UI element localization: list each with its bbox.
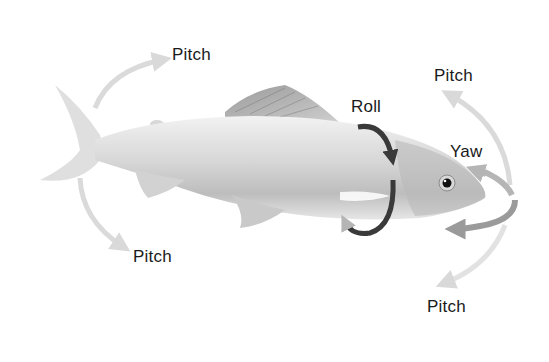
fish-tail [40,85,103,181]
pitch-label-top-right: Pitch [434,66,473,86]
fish-body [95,116,485,219]
roll-label: Roll [351,97,381,117]
pitch-arrow-head-down [445,225,505,283]
pitch-label-bottom-right: Pitch [427,297,466,317]
pitch-label-top-left: Pitch [172,45,211,65]
pitch-arrow-tail-down [80,178,122,246]
fish-illustration [0,0,549,362]
pitch-label-bottom-left: Pitch [133,247,172,267]
fish-eye [439,175,455,191]
yaw-label: Yaw [450,142,482,162]
fish-motion-diagram: Pitch Pitch Pitch Pitch Roll Yaw [0,0,549,362]
pitch-arrow-tail-up [95,60,162,108]
